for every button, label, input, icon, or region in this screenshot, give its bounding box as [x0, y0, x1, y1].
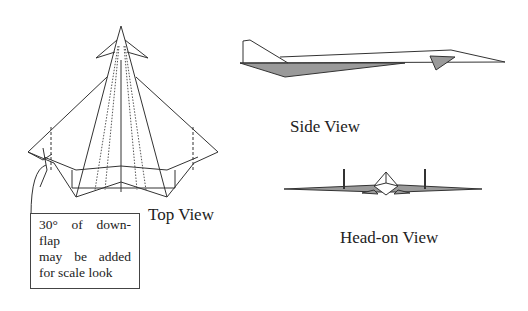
head-on-view-label: Head-on View	[340, 228, 438, 248]
top-view-label: Top View	[148, 205, 214, 225]
note-line-1: 30° of down-flap	[39, 217, 131, 249]
note-line-3: for scale look	[39, 265, 131, 281]
side-view-plane	[240, 40, 505, 77]
top-view-plane	[28, 26, 218, 215]
side-view-label: Side View	[290, 117, 360, 137]
note-line-2: may be added	[39, 249, 131, 265]
down-flap-note: 30° of down-flap may be added for scale …	[30, 213, 140, 289]
head-on-view-plane	[284, 169, 482, 195]
